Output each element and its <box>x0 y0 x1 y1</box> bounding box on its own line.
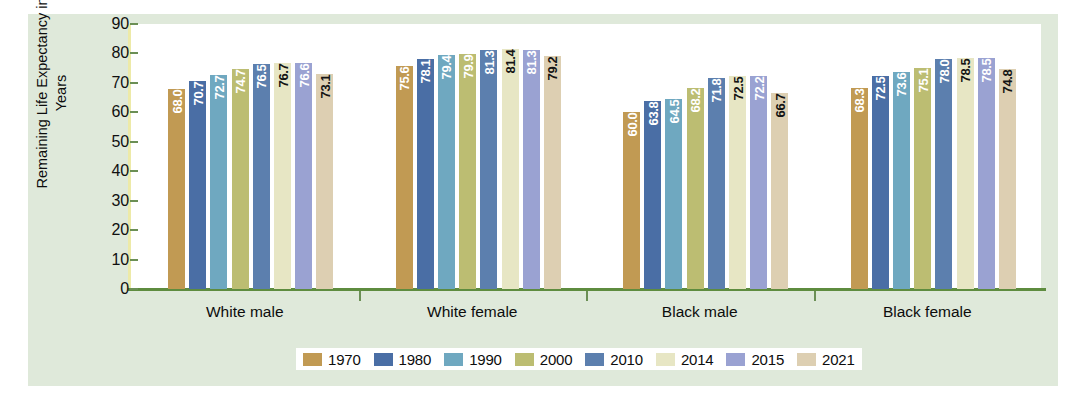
y-tick: 50 <box>60 135 138 149</box>
legend-label: 1970 <box>328 351 361 368</box>
bar-value-label: 74.8 <box>1000 69 1015 93</box>
bar-value-label: 71.8 <box>709 78 724 102</box>
bar: 72.2 <box>750 76 767 289</box>
bar: 78.5 <box>978 58 995 289</box>
legend-label: 2015 <box>751 351 784 368</box>
bar-value-label: 73.6 <box>894 73 909 97</box>
bar-value-label: 78.1 <box>418 59 433 83</box>
x-group-label: Black female <box>814 303 1042 321</box>
bar: 81.3 <box>480 50 497 289</box>
bar-value-label: 76.7 <box>275 64 290 88</box>
bar: 68.3 <box>851 88 868 289</box>
bar-value-label: 76.6 <box>296 64 311 88</box>
legend-swatch-icon <box>374 353 393 366</box>
bar-value-label: 78.5 <box>979 58 994 82</box>
legend-swatch-icon <box>515 353 534 366</box>
legend-item: 1980 <box>374 351 432 368</box>
bar: 75.6 <box>396 66 413 289</box>
y-tick: 30 <box>60 194 138 208</box>
legend-label: 1980 <box>399 351 432 368</box>
bar: 70.7 <box>189 81 206 289</box>
bar: 66.7 <box>771 93 788 289</box>
bar: 78.5 <box>957 58 974 289</box>
x-group-tick <box>359 291 361 301</box>
chart-figure: Remaining Life Expectancy in Years 90807… <box>0 0 1072 414</box>
bar: 76.7 <box>274 63 291 289</box>
bar: 78.0 <box>935 59 952 289</box>
bar-value-label: 75.1 <box>915 68 930 92</box>
bar-value-label: 63.8 <box>645 102 660 126</box>
bar: 75.1 <box>914 68 931 289</box>
bar: 76.5 <box>253 64 270 289</box>
legend-swatch-icon <box>303 353 322 366</box>
bar-value-label: 72.2 <box>751 77 766 101</box>
bar-value-label: 60.0 <box>624 113 639 137</box>
x-group-label: White female <box>359 303 587 321</box>
bar: 64.5 <box>665 99 682 289</box>
bar: 72.5 <box>729 76 746 289</box>
bar-value-label: 72.7 <box>211 75 226 99</box>
bar-value-label: 76.5 <box>254 64 269 88</box>
bar-value-label: 70.7 <box>190 81 205 105</box>
x-group-label: White male <box>131 303 359 321</box>
legend-swatch-icon <box>726 353 745 366</box>
legend-item: 2000 <box>515 351 573 368</box>
legend-label: 2010 <box>610 351 643 368</box>
bar: 68.0 <box>168 89 185 289</box>
bar: 74.8 <box>999 69 1016 289</box>
y-tick: 10 <box>60 253 138 267</box>
x-group-tick <box>814 291 816 301</box>
bar-value-label: 73.1 <box>317 74 332 98</box>
legend-swatch-icon <box>797 353 816 366</box>
bar-value-label: 68.2 <box>688 89 703 113</box>
bar: 60.0 <box>623 112 640 289</box>
bar: 79.9 <box>459 54 476 289</box>
bar-value-label: 74.7 <box>233 70 248 94</box>
bar-value-label: 75.6 <box>397 67 412 91</box>
legend-swatch-icon <box>585 353 604 366</box>
legend-item: 1970 <box>303 351 361 368</box>
legend-label: 2021 <box>822 351 855 368</box>
chart-legend: 19701980199020002010201420152021 <box>296 348 862 370</box>
legend-item: 2015 <box>726 351 784 368</box>
legend-item: 2021 <box>797 351 855 368</box>
bar-value-label: 79.2 <box>545 56 560 80</box>
bar: 71.8 <box>708 78 725 289</box>
bar-value-label: 78.5 <box>958 58 973 82</box>
bar: 74.7 <box>232 69 249 289</box>
y-tick: 20 <box>60 223 138 237</box>
bar: 73.6 <box>893 72 910 289</box>
bar: 76.6 <box>295 63 312 289</box>
y-tick: 80 <box>60 46 138 60</box>
legend-label: 2014 <box>681 351 714 368</box>
x-group-tick <box>586 291 588 301</box>
legend-item: 2014 <box>656 351 714 368</box>
legend-label: 2000 <box>540 351 573 368</box>
bar: 79.2 <box>544 56 561 289</box>
bar-value-label: 66.7 <box>772 93 787 117</box>
legend-label: 1990 <box>469 351 502 368</box>
bar: 78.1 <box>417 59 434 289</box>
bar-value-label: 79.4 <box>439 56 454 80</box>
bar: 81.3 <box>523 50 540 289</box>
bar-value-label: 81.3 <box>524 50 539 74</box>
legend-item: 2010 <box>585 351 643 368</box>
bar-value-label: 81.4 <box>503 50 518 74</box>
y-tick: 60 <box>60 105 138 119</box>
bar-value-label: 68.3 <box>852 88 867 112</box>
bar-value-label: 72.5 <box>730 76 745 100</box>
bar: 72.5 <box>872 76 889 289</box>
y-tick: 40 <box>60 164 138 178</box>
legend-item: 1990 <box>444 351 502 368</box>
bar: 63.8 <box>644 101 661 289</box>
bar: 68.2 <box>687 88 704 289</box>
bar: 79.4 <box>438 55 455 289</box>
legend-swatch-icon <box>656 353 675 366</box>
bar-value-label: 64.5 <box>666 100 681 124</box>
bar: 81.4 <box>502 49 519 289</box>
legend-swatch-icon <box>444 353 463 366</box>
bar-value-label: 81.3 <box>481 50 496 74</box>
bar-value-label: 68.0 <box>169 89 184 113</box>
y-tick: 70 <box>60 76 138 90</box>
y-tick: 0 <box>60 282 138 296</box>
